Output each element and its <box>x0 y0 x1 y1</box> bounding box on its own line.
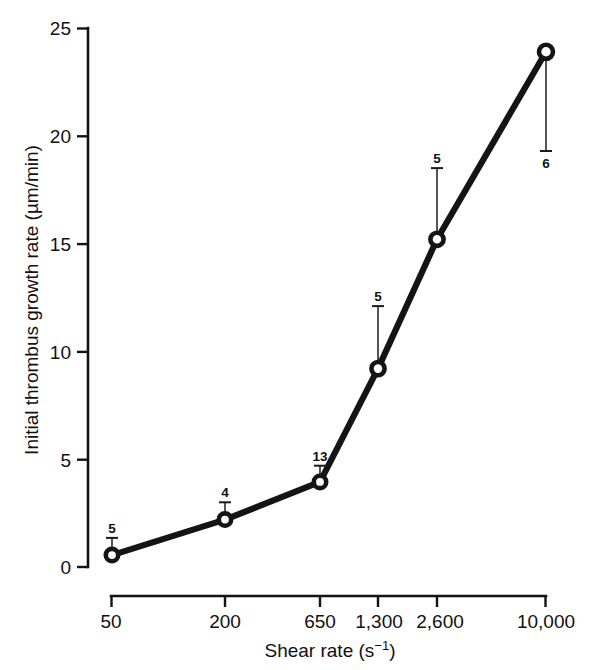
n-label-10000: 6 <box>542 156 550 171</box>
y-tick-label-5: 5 <box>60 450 71 471</box>
n-label-650: 13 <box>312 449 328 464</box>
y-axis-title: Initial thrombus growth rate (µm/min) <box>21 145 42 455</box>
x-tick-label-2600: 2,600 <box>416 611 464 632</box>
n-label-1300: 5 <box>374 289 382 304</box>
data-point-650 <box>314 476 326 488</box>
data-point-2600 <box>430 233 443 246</box>
x-axis-title-base: Shear rate (s <box>265 640 375 661</box>
y-tick-label-20: 20 <box>50 126 71 147</box>
x-tick-label-200: 200 <box>209 611 241 632</box>
data-point-1300 <box>371 362 384 375</box>
x-tick-label-50: 50 <box>100 611 121 632</box>
n-label-2600: 5 <box>433 151 441 166</box>
x-axis-title: Shear rate (s−1) <box>265 638 396 661</box>
y-tick-label-10: 10 <box>50 342 71 363</box>
x-tick-label-650: 650 <box>304 611 336 632</box>
n-label-200: 4 <box>221 485 229 500</box>
x-axis-title-close: ) <box>389 640 395 661</box>
x-tick-label-10000: 10,000 <box>517 611 575 632</box>
x-tick-label-1300: 1,300 <box>355 611 403 632</box>
figure-root: 25 20 15 10 5 0 Initial thrombus growth … <box>0 0 596 670</box>
y-tick-label-25: 25 <box>50 18 71 39</box>
data-point-200 <box>219 513 231 525</box>
series-line-growth-rate <box>112 52 546 555</box>
data-point-50 <box>106 549 118 561</box>
y-tick-label-0: 0 <box>60 557 71 578</box>
n-label-50: 5 <box>108 521 116 536</box>
x-axis-title-exponent: −1 <box>374 638 389 653</box>
line-chart: 25 20 15 10 5 0 Initial thrombus growth … <box>0 0 596 670</box>
error-bar-10000 <box>540 52 552 151</box>
y-tick-label-15: 15 <box>50 234 71 255</box>
data-point-10000 <box>539 45 553 59</box>
